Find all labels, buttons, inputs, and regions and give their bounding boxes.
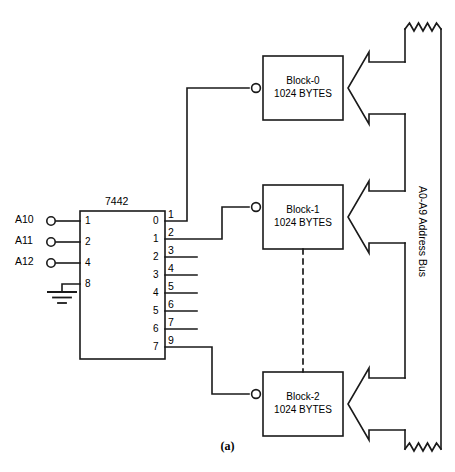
decoder-pin-number-2: 2 [168, 227, 174, 239]
bus-arrow-to-block-0 [348, 52, 405, 124]
input-label-a10: A10 [15, 214, 34, 226]
decoder-output-label-1: 1 [153, 233, 159, 244]
input-label-a11: A11 [15, 235, 33, 247]
figure-caption: (a) [0, 440, 455, 453]
decoder-output-label-2: 2 [153, 251, 159, 262]
block-2-select-bubble [252, 390, 261, 399]
decoder-output-label-0: 0 [153, 215, 159, 226]
ground-wire [62, 284, 80, 292]
decoder-pin-number-6: 6 [168, 299, 174, 311]
output-wire-2-to-block1 [165, 207, 249, 239]
output-wire-9-to-block2 [165, 347, 249, 394]
decoder-input-weight-4: 4 [85, 257, 91, 268]
input-label-a12: A12 [15, 256, 34, 268]
decoder-output-label-5: 5 [153, 305, 159, 316]
input-terminal-a10 [47, 217, 55, 225]
block-0-select-bubble [252, 84, 261, 93]
figure-circuit-diagram: 7442 A10 A11 A12 1 2 4 8 0 1 2 3 4 5 6 7… [0, 0, 455, 472]
memory-block-0-size: 1024 BYTES [263, 88, 343, 99]
output-wire-1-to-block0 [165, 88, 249, 221]
input-terminal-a12 [47, 259, 55, 267]
address-bus-label: A0-A9 Address Bus [416, 186, 428, 277]
bus-arrow-to-block-1 [348, 181, 405, 253]
block-1-select-bubble [252, 203, 261, 212]
decoder-pin-number-3: 3 [168, 245, 174, 257]
memory-block-2-size: 1024 BYTES [263, 404, 343, 415]
decoder-output-label-6: 6 [153, 323, 159, 334]
decoder-input-weight-2: 2 [85, 236, 91, 247]
memory-block-1-name: Block-1 [263, 204, 343, 215]
decoder-pin-number-4: 4 [168, 263, 174, 275]
decoder-output-label-4: 4 [153, 287, 159, 298]
decoder-input-weight-8: 8 [85, 278, 91, 289]
memory-block-2-name: Block-2 [263, 391, 343, 402]
memory-block-0-name: Block-0 [263, 75, 343, 86]
diagram-canvas [0, 0, 455, 472]
bus-arrow-to-block-2 [348, 368, 405, 440]
input-terminal-a11 [47, 238, 55, 246]
decoder-output-label-3: 3 [153, 269, 159, 280]
decoder-pin-number-9: 9 [168, 335, 174, 347]
decoder-input-weight-1: 1 [85, 215, 91, 226]
memory-block-1-size: 1024 BYTES [263, 217, 343, 228]
decoder-pin-number-1: 1 [168, 209, 174, 221]
bus-break-top [405, 23, 441, 31]
decoder-pin-number-7: 7 [168, 317, 174, 329]
decoder-output-label-7: 7 [153, 341, 159, 352]
decoder-pin-number-5: 5 [168, 281, 174, 293]
decoder-part-number: 7442 [105, 196, 128, 208]
